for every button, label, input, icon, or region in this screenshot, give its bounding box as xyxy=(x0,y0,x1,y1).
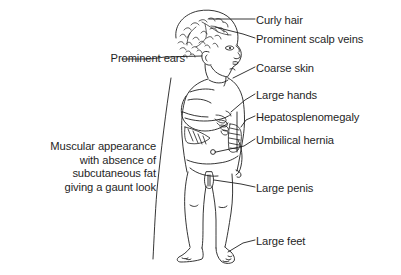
label-prominent-scalp-veins: Prominent scalp veins xyxy=(256,33,363,46)
leader-coarse-skin xyxy=(233,67,255,78)
ear-inner xyxy=(206,55,208,61)
label-large-hands: Large hands xyxy=(256,89,317,102)
gaunt-line-2: with absence of xyxy=(0,154,156,168)
jaw-line xyxy=(211,66,228,77)
groin-line xyxy=(190,168,218,176)
leader-large-penis xyxy=(214,180,255,187)
large-feet xyxy=(177,247,234,263)
leader-large-hands xyxy=(231,94,255,112)
knee-left xyxy=(190,205,198,207)
label-large-penis: Large penis xyxy=(256,182,313,195)
pupil xyxy=(229,47,231,49)
leader-scalp-veins xyxy=(215,27,255,38)
curly-hair-texture xyxy=(178,18,228,58)
label-large-feet: Large feet xyxy=(256,235,305,248)
label-gaunt-appearance: Muscular appearance with absence of subc… xyxy=(0,140,156,194)
shoulder-line xyxy=(190,89,214,92)
scalp-veins xyxy=(187,22,231,47)
skull-outline xyxy=(176,10,238,45)
label-curly-hair: Curly hair xyxy=(256,14,303,27)
gaunt-line-4: giving a gaunt look xyxy=(0,181,156,195)
leg-right-inner xyxy=(212,186,216,248)
nose-line xyxy=(234,53,240,59)
leader-hepatosplenomegaly xyxy=(241,116,255,127)
leader-umbilical-hernia xyxy=(216,139,255,152)
pectoral-line xyxy=(188,99,211,103)
leg-left-inner xyxy=(202,186,206,248)
leg-left-outer xyxy=(185,172,190,247)
clinical-features-diagram: Curly hair Prominent scalp veins Coarse … xyxy=(0,0,401,275)
gaunt-line-1: Muscular appearance xyxy=(0,140,156,154)
label-coarse-skin: Coarse skin xyxy=(256,62,314,75)
label-hepatosplenomegaly: Hepatosplenomegaly xyxy=(256,111,359,124)
chin-line xyxy=(230,69,235,70)
umbilical-hernia-marker xyxy=(211,150,216,155)
label-prominent-ears: Prominent ears xyxy=(0,52,185,65)
gaunt-line-3: subcutaneous fat xyxy=(0,167,156,181)
label-umbilical-hernia: Umbilical hernia xyxy=(256,134,334,147)
neck-back xyxy=(205,64,208,78)
prominent-ear-outline xyxy=(202,51,211,65)
torso-left-contour xyxy=(182,79,208,172)
leg-right-outer xyxy=(225,174,233,247)
knee-right xyxy=(219,206,227,208)
abdomen-line xyxy=(187,156,238,164)
arm-crease xyxy=(183,112,208,117)
leader-large-feet xyxy=(228,240,255,252)
